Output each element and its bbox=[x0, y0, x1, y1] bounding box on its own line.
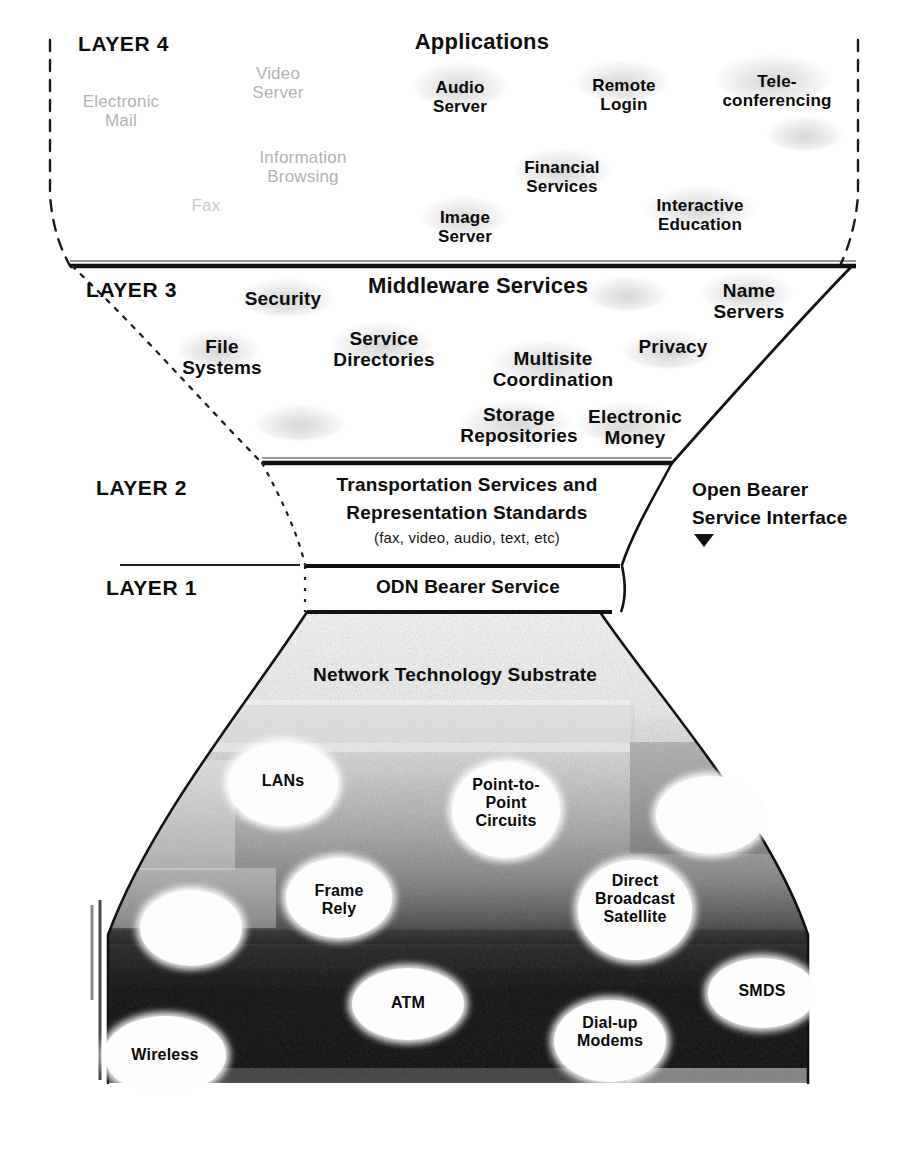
svc-service-directories: Service Directories bbox=[310, 328, 458, 371]
diagram-canvas: LAYER 4 Applications Video Server Electr… bbox=[0, 0, 913, 1161]
app-video-server: Video Server bbox=[218, 64, 338, 102]
tech-direct-broadcast-satellite: Direct Broadcast Satellite bbox=[578, 872, 692, 926]
tech-wireless: Wireless bbox=[104, 1046, 226, 1064]
layer4-header: Applications bbox=[362, 30, 602, 55]
tech-atm: ATM bbox=[352, 994, 464, 1012]
tech-bubble bbox=[140, 890, 242, 966]
layer3-header: Middleware Services bbox=[338, 274, 618, 299]
open-bearer-line1: Open Bearer bbox=[692, 478, 912, 502]
tech-frame-relay: Frame Rely bbox=[288, 882, 390, 918]
layer1-tag: LAYER 1 bbox=[106, 576, 266, 600]
smudge bbox=[766, 116, 844, 150]
svc-file-systems: File Systems bbox=[168, 336, 276, 379]
app-financial-services: Financial Services bbox=[502, 158, 622, 196]
layer3-tag: LAYER 3 bbox=[86, 278, 236, 302]
tech-dial-up-modems: Dial-up Modems bbox=[554, 1014, 666, 1050]
svc-electronic-money: Electronic Money bbox=[570, 406, 700, 449]
open-bearer-line2: Service Interface bbox=[692, 506, 913, 530]
layer4-tag: LAYER 4 bbox=[78, 32, 228, 56]
smudge bbox=[254, 404, 346, 440]
layer2-tag: LAYER 2 bbox=[96, 476, 256, 500]
svc-security: Security bbox=[228, 288, 338, 309]
layer2-title-line2: Representation Standards bbox=[272, 502, 662, 523]
tech-smds: SMDS bbox=[708, 982, 816, 1000]
svc-privacy: Privacy bbox=[618, 336, 728, 357]
layer4-left-edge bbox=[50, 40, 70, 266]
tech-bubble bbox=[656, 776, 766, 854]
app-interactive-education: Interactive Education bbox=[632, 196, 768, 234]
layer2-subtitle: (fax, video, audio, text, etc) bbox=[272, 530, 662, 547]
app-image-server: Image Server bbox=[408, 208, 522, 246]
tech-lans: LANs bbox=[230, 772, 336, 790]
svc-multisite-coordination: Multisite Coordination bbox=[478, 348, 628, 391]
layer1-title: ODN Bearer Service bbox=[318, 576, 618, 597]
layer2-title-line1: Transportation Services and bbox=[272, 474, 662, 495]
app-remote-login: Remote Login bbox=[564, 76, 684, 114]
app-fax: Fax bbox=[176, 196, 236, 215]
app-teleconferencing: Tele- conferencing bbox=[704, 72, 850, 110]
layer1-right-edge bbox=[621, 566, 625, 612]
tech-point-to-point-circuits: Point-to- Point Circuits bbox=[452, 776, 560, 830]
substrate-header: Network Technology Substrate bbox=[230, 664, 680, 685]
app-electronic-mail: Electronic Mail bbox=[56, 92, 186, 130]
app-information-browsing: Information Browsing bbox=[228, 148, 378, 186]
down-triangle-icon bbox=[694, 534, 714, 547]
svc-name-servers: Name Servers bbox=[694, 280, 804, 323]
app-audio-server: Audio Server bbox=[400, 78, 520, 116]
